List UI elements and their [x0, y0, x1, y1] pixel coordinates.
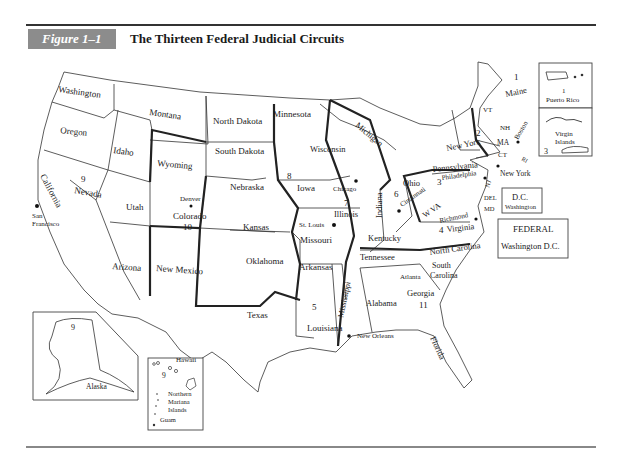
virgin-islands-circuit: 3: [544, 147, 548, 156]
label-oklahoma: Oklahoma: [246, 256, 284, 266]
label-indiana: Indiana: [374, 192, 384, 218]
circuit-4: 4: [439, 225, 444, 235]
city-dot-st-louis: [332, 223, 336, 227]
label-connecticut: CT: [498, 151, 508, 159]
inset-puerto-rico-virgin-islands: 1 Puerto Rico Virgin Islands 3: [539, 63, 592, 156]
label-new-jersey: NJ: [483, 179, 492, 189]
label-south-dakota: South Dakota: [215, 146, 264, 156]
label-st-louis: St. Louis: [299, 221, 325, 229]
federal-city: Washington D.C.: [501, 241, 560, 251]
city-dot-cincinnati: [397, 209, 401, 213]
bottom-rule: [26, 446, 596, 448]
label-san-francisco-2: Francisco: [32, 220, 60, 228]
label-alabama: Alabama: [366, 298, 397, 308]
label-nebraska: Nebraska: [230, 182, 264, 192]
circuit-7: 7: [344, 198, 349, 208]
circuit-9: 9: [81, 174, 86, 184]
puerto-rico-circuit: 1: [562, 87, 566, 95]
us-circuits-map: Washington Oregon California Idaho Nevad…: [0, 0, 625, 459]
nmi-label-3: Islands: [168, 406, 187, 413]
label-boston: Boston: [513, 119, 530, 141]
circuit-8: 8: [287, 171, 292, 181]
label-denver: Denver: [180, 195, 201, 203]
circuit-3: 3: [437, 177, 442, 187]
label-louisiana: Louisiana: [307, 323, 343, 333]
dc-city: Washington: [505, 203, 537, 210]
virgin-islands-label-1: Virgin: [555, 130, 573, 138]
city-dot-philadelphia: [483, 176, 486, 179]
label-tennessee: Tennessee: [360, 252, 395, 262]
circuit-11: 11: [419, 300, 428, 310]
label-illinois: Illinois: [334, 209, 358, 219]
label-missouri: Missouri: [300, 235, 333, 245]
virgin-islands-label-2: Islands: [555, 138, 575, 146]
inset-pacific: Hawaii 9 Northern Mariana Islands Guam: [148, 356, 203, 430]
federal-title: FEDERAL: [513, 224, 554, 234]
label-atlanta: Atlanta: [400, 273, 421, 281]
city-dot-denver: [190, 205, 193, 208]
label-ohio: Ohio: [403, 178, 420, 188]
label-chicago: Chicago: [333, 185, 357, 193]
city-dot-chicago: [354, 179, 358, 183]
inset-alaska: 9 Alaska: [33, 312, 138, 400]
city-dot-san-francisco: [35, 204, 39, 208]
circuit-1: 1: [514, 72, 519, 82]
label-massachusetts: MA: [497, 138, 510, 147]
nmi-label-1: Northern: [168, 390, 192, 397]
hawaii-label: Hawaii: [176, 356, 196, 364]
label-rhode-island: RI: [521, 156, 529, 164]
alaska-circuit: 9: [71, 323, 75, 332]
label-new-orleans: New Orleans: [357, 332, 394, 340]
label-delaware: DEL: [484, 194, 497, 201]
label-vermont: VT: [483, 106, 493, 114]
label-minnesota: Minnesota: [273, 109, 311, 119]
inset-dc: D.C. Washington: [502, 188, 542, 213]
circuit-6: 6: [394, 189, 399, 199]
label-iowa: Iowa: [297, 183, 315, 193]
label-colorado: Colorado: [173, 211, 207, 221]
label-new-york-city: New York: [500, 169, 531, 178]
circuit-5: 5: [312, 302, 317, 312]
label-arizona: Arizona: [112, 261, 142, 273]
guam-label: Guam: [160, 416, 176, 423]
label-new-hampshire: NH: [500, 124, 510, 132]
label-arkansas: Arkansas: [299, 262, 333, 272]
city-dot-boston: [516, 140, 519, 143]
city-dot-richmond: [474, 217, 477, 220]
alaska-label: Alaska: [86, 382, 107, 391]
label-maryland: MD: [484, 205, 495, 212]
label-kentucky: Kentucky: [368, 233, 402, 243]
label-wisconsin: Wisconsin: [310, 144, 346, 154]
city-dot-new-orleans: [347, 334, 351, 338]
label-texas: Texas: [247, 310, 268, 320]
circuit-2: 2: [476, 128, 481, 138]
label-utah: Utah: [126, 202, 144, 212]
dc-title: D.C.: [512, 192, 528, 202]
puerto-rico-label: Puerto Rico: [546, 96, 580, 104]
label-georgia: Georgia: [407, 288, 434, 298]
label-south-carolina-2: Carolina: [430, 271, 458, 280]
nmi-label-2: Mariana: [168, 398, 190, 405]
label-maine: Maine: [504, 85, 528, 99]
label-south-carolina-1: South: [432, 261, 451, 270]
label-north-dakota: North Dakota: [213, 116, 262, 126]
inset-federal: FEDERAL Washington D.C.: [498, 219, 568, 258]
label-kansas: Kansas: [243, 222, 269, 232]
label-san-francisco-1: San: [32, 212, 43, 220]
city-dot-new-york: [496, 164, 499, 167]
pacific-circuit: 9: [162, 371, 166, 380]
circuit-10: 10: [183, 222, 193, 232]
